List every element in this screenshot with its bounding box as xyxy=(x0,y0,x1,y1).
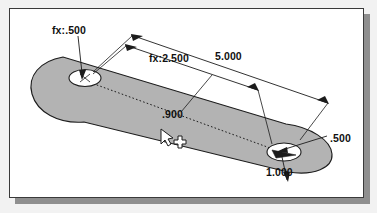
extension-line-spacing-left xyxy=(93,46,126,74)
arrowhead-5000-left xyxy=(131,34,143,41)
dimension-label-overall-length[interactable]: 5.000 xyxy=(215,50,242,62)
dimension-label-slot-width[interactable]: 1.000 xyxy=(266,166,293,178)
dimension-label-hole-diameter-left[interactable]: fx:.500 xyxy=(52,24,86,36)
arrowhead-5000-right xyxy=(317,96,329,104)
dimension-label-hole-spacing[interactable]: fx:2.500 xyxy=(149,52,189,64)
dimension-label-hole-diameter-right[interactable]: .500 xyxy=(330,132,351,144)
dimension-label-edge-offset[interactable]: .900 xyxy=(162,108,183,120)
extension-line-overall-left xyxy=(93,36,132,72)
arrowhead-2500-right xyxy=(247,83,259,91)
arrowhead-2500-left xyxy=(125,44,137,51)
drawing-canvas: fx:.500 fx:2.500 5.000 .900 .500 1.000 xyxy=(0,0,377,213)
